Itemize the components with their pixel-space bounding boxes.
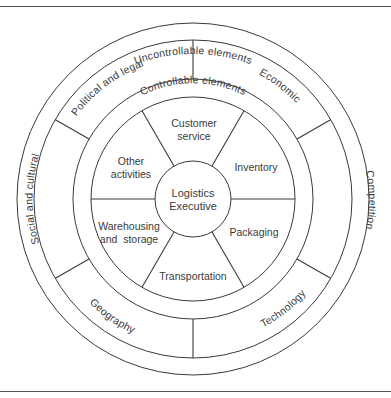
center-label-line1: Logistics <box>172 187 215 199</box>
activity-other-line2: activities <box>111 168 151 180</box>
activity-warehousing-line1: Warehousing <box>98 220 160 232</box>
uncontrollable-inner-ring <box>34 40 352 358</box>
activity-other-line1: Other <box>118 155 145 167</box>
segment-competition: Competition <box>364 169 379 231</box>
activity-packaging: Packaging <box>229 226 278 238</box>
controllable-elements-title: Controllable elements <box>138 73 249 97</box>
activity-inventory: Inventory <box>234 161 278 173</box>
activity-customer-service-line1: Customer <box>171 117 217 129</box>
activity-warehousing-line2: and storage <box>100 233 159 245</box>
center-circle <box>155 161 231 237</box>
segment-technology: Technology <box>258 286 308 329</box>
activity-transportation: Transportation <box>159 270 226 282</box>
logistics-wheel-diagram: Uncontrollable elements Political and le… <box>0 0 391 398</box>
segment-economic: Economic <box>258 66 304 105</box>
center-label-line2: Executive <box>169 200 217 212</box>
activity-customer-service-line2: service <box>177 130 210 142</box>
segment-social-cultural: Social and cultural <box>22 152 41 246</box>
